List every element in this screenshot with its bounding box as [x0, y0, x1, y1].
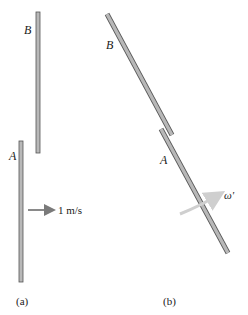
rod-b-b — [107, 14, 172, 135]
rod-b-label-b: B — [106, 38, 114, 52]
omega-label: ω' — [224, 189, 235, 201]
rod-a-label-b: A — [159, 153, 168, 167]
figure-a: B A 1 m/s (a) — [8, 12, 82, 308]
rod-a-label-a: A — [8, 149, 17, 163]
rod-a-a — [19, 141, 23, 282]
rod-b-label-a: B — [24, 23, 32, 37]
caption-b: (b) — [163, 295, 176, 308]
caption-a: (a) — [16, 295, 29, 308]
diagram-canvas: B A 1 m/s (a) B A ω' (b) — [0, 0, 248, 315]
rod-b-a — [36, 12, 40, 153]
figure-b: B A ω' (b) — [106, 14, 235, 308]
rod-a-b — [161, 129, 228, 253]
velocity-label: 1 m/s — [58, 204, 82, 216]
